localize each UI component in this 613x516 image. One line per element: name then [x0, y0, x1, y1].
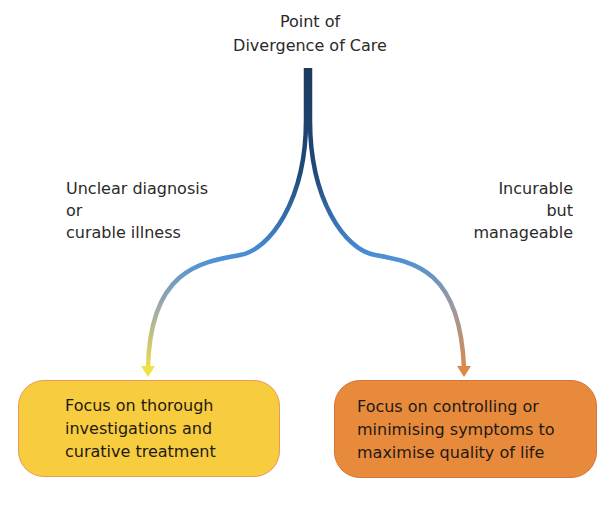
condition-line: Incurable [473, 178, 573, 200]
branch-right-condition: Incurable but manageable [473, 178, 573, 244]
condition-line: curable illness [66, 222, 208, 244]
outcome-line: maximise quality of life [357, 441, 555, 464]
outcome-line: investigations and [65, 417, 216, 440]
condition-line: manageable [473, 222, 573, 244]
outcome-box-palliative: Focus on controlling or minimising sympt… [334, 380, 597, 478]
outcome-line: Focus on thorough [65, 394, 216, 417]
condition-line: Unclear diagnosis [66, 178, 208, 200]
outcome-line: minimising symptoms to [357, 418, 555, 441]
branch-left-condition: Unclear diagnosis or curable illness [66, 178, 208, 244]
outcome-line: Focus on controlling or [357, 395, 555, 418]
condition-line: or [66, 200, 208, 222]
outcome-box-curative: Focus on thorough investigations and cur… [18, 380, 280, 477]
condition-line: but [473, 200, 573, 222]
outcome-line: curative treatment [65, 440, 216, 463]
branch-right-arrow [310, 68, 471, 377]
